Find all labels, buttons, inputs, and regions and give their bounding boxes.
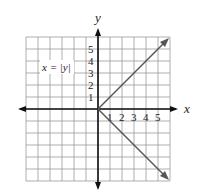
equation-label: x = |y| [41,61,71,73]
y-tick-label: 2 [88,79,94,91]
x-axis-left-arrow-icon [18,106,26,112]
y-axis-down-arrow-icon [95,182,101,190]
upper-branch-line [98,41,166,109]
y-tick-label: 5 [88,43,94,55]
x-axis-right-arrow-icon [170,106,178,112]
equation-label-box: x = |y| [40,60,74,74]
y-tick-labels: 1 2 3 4 5 [88,43,94,103]
y-tick-label: 3 [88,67,94,79]
y-axis-label: y [93,10,101,25]
y-tick-label: 4 [88,55,94,67]
graph: y x 1 2 3 4 5 1 2 3 4 5 x = |y| [0,0,197,195]
x-axis-label: x [183,101,190,116]
x-tick-label: 4 [143,111,149,123]
y-axis-up-arrow-icon [95,28,101,36]
x-tick-label: 5 [155,111,161,123]
x-tick-label: 2 [119,111,125,123]
x-tick-label: 3 [131,111,137,123]
y-tick-label: 1 [88,91,94,103]
